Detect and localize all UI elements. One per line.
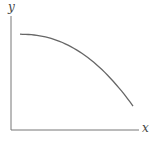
curve-line — [20, 34, 133, 106]
x-axis-label: x — [142, 122, 149, 134]
plot-area — [0, 0, 153, 142]
y-axis-label: y — [8, 1, 15, 13]
chart: y x — [0, 0, 153, 142]
